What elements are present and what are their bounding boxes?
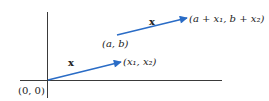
vector-translation-diagram: (0, 0) x (x₁, x₂) x (a, b) (a + x₁, b + … <box>0 0 269 101</box>
vector-start-label: (a, b) <box>102 38 129 49</box>
vector-from-origin: x (x₁, x₂) <box>48 56 157 80</box>
vector-end-label: (a + x₁, b + x₂) <box>189 13 264 24</box>
origin-label: (0, 0) <box>18 85 45 96</box>
vector-arrow <box>48 62 121 80</box>
vector-translated: x (a, b) (a + x₁, b + x₂) <box>102 13 264 49</box>
vector-end-label: (x₁, x₂) <box>123 56 157 67</box>
vector-label: x <box>149 16 156 27</box>
vector-label: x <box>68 57 75 68</box>
axes <box>20 12 222 98</box>
